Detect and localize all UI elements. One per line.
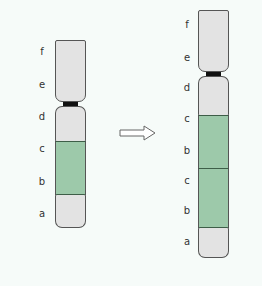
left-label-d: d bbox=[36, 111, 48, 122]
right-label-d: d bbox=[181, 82, 193, 93]
left-band-a bbox=[55, 194, 86, 228]
right-label-c2: c bbox=[181, 175, 193, 186]
right-label-e: e bbox=[181, 52, 193, 63]
left-label-a: a bbox=[36, 208, 48, 219]
right-arrow-icon bbox=[119, 125, 157, 141]
right-label-a: a bbox=[181, 236, 193, 247]
left-label-b: b bbox=[36, 176, 48, 187]
left-label-e: e bbox=[36, 79, 48, 90]
right-band-cb-2 bbox=[198, 168, 229, 228]
right-band-d bbox=[198, 76, 229, 116]
right-band-cb-1 bbox=[198, 115, 229, 169]
right-label-c: c bbox=[181, 113, 193, 124]
right-band-a bbox=[198, 227, 229, 258]
left-band-cb bbox=[55, 141, 86, 195]
right-label-b: b bbox=[181, 145, 193, 156]
left-upper-arm bbox=[55, 40, 86, 102]
right-label-b2: b bbox=[181, 205, 193, 216]
right-label-f: f bbox=[181, 19, 193, 30]
left-label-c: c bbox=[36, 143, 48, 154]
left-band-d bbox=[55, 106, 86, 142]
left-label-f: f bbox=[36, 46, 48, 57]
right-upper-arm bbox=[198, 10, 229, 72]
